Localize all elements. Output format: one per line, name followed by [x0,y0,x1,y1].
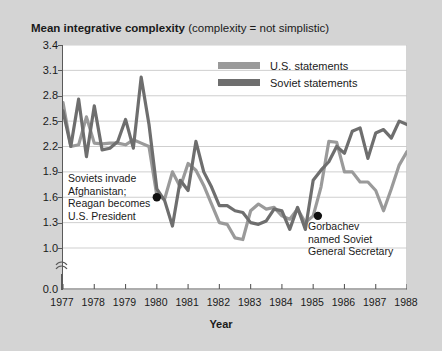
y-axis-tick: 1.0 [32,243,58,254]
x-axis-labels: 1977197819791980198119821983198419851986… [0,296,442,312]
chart-title: Mean integrative complexity (complexity … [31,22,329,34]
legend-label-soviet: Soviet statements [270,77,357,89]
legend-item-us: U.S. statements [218,57,368,74]
legend-swatch-us [218,62,260,69]
annotation-line: named Soviet [308,233,393,246]
x-axis-title: Year [0,318,442,330]
annotation-gorbachev: Gorbachevnamed SovietGeneral Secretary [308,220,393,258]
chart-legend: U.S. statements Soviet statements [218,57,368,91]
chart-page: Mean integrative complexity (complexity … [0,0,442,351]
annotation-line: General Secretary [308,245,393,258]
legend-label-us: U.S. statements [270,60,348,72]
x-axis-tick: 1988 [386,296,426,308]
annotation-line: U.S. President [68,210,150,223]
y-axis-tick: 2.8 [32,90,58,101]
y-axis-tick: 3.4 [32,40,58,51]
y-axis-tick: 2.2 [32,141,58,152]
annotation-soviets-invade: Soviets invadeAfghanistan;Reagan becomes… [68,172,150,222]
annotation-line: Soviets invade [68,172,150,185]
annotation-line: Gorbachev [308,220,393,233]
y-axis-tick: 0.0 [32,284,58,295]
y-axis-break-icon [55,258,69,274]
y-axis-tick: 3.1 [32,65,58,76]
annotation-line: Reagan becomes [68,197,150,210]
annotation-line: Afghanistan; [68,185,150,198]
legend-swatch-soviet [218,79,260,86]
y-axis-tick: 2.5 [32,116,58,127]
y-axis-tick: 1.9 [32,166,58,177]
y-axis-tick: 1.3 [32,217,58,228]
chart-title-sub: (complexity = not simplistic) [185,22,329,34]
y-axis-tick: 1.6 [32,192,58,203]
legend-item-soviet: Soviet statements [218,74,368,91]
y-axis-lower-stub [61,274,62,290]
